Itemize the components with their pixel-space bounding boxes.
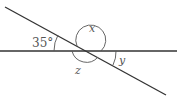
label-x: x — [89, 22, 96, 35]
label-y: y — [118, 54, 126, 67]
angle-arc-35 — [54, 35, 58, 51]
angle-arc-z — [72, 51, 98, 62]
label-z: z — [74, 64, 81, 77]
label-35: 35° — [32, 36, 53, 50]
angle-diagram: 35° x y z — [0, 0, 184, 109]
angle-arc-y — [113, 51, 116, 65]
